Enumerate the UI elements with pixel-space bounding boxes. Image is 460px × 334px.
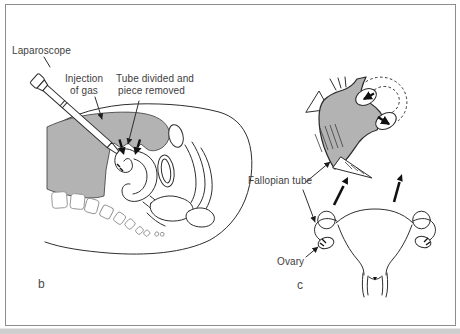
medical-figure-page: Laparoscope Injection of gas Tube divide…: [0, 0, 460, 334]
injection-label-line1: Injection: [65, 73, 103, 84]
panel-letter-b: b: [38, 277, 45, 291]
figure-canvas: Laparoscope Injection of gas Tube divide…: [0, 0, 460, 334]
ovary-label: Ovary: [277, 256, 304, 267]
tube-divided-label-line2: piece removed: [118, 85, 185, 96]
injection-label-line2: of gas: [70, 85, 98, 96]
fallopian-tube-label: Fallopian tube: [248, 175, 313, 186]
pelvic-floor-blob2: [186, 208, 214, 227]
panel-letter-c: c: [297, 278, 303, 292]
tube-divided-label-line1: Tube divided and: [116, 73, 194, 84]
page-edge-strip: [0, 329, 460, 334]
laparoscope-label: Laparoscope: [12, 45, 71, 56]
